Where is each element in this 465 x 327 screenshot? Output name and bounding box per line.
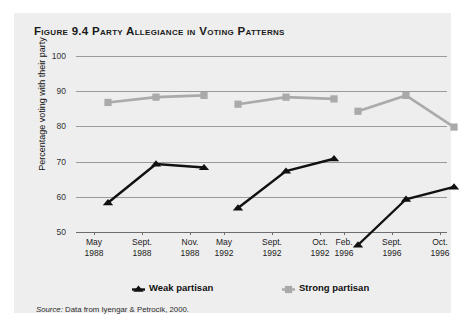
source-note: Source: Data from Iyengar & Petrocik, 20…	[36, 305, 189, 314]
x-axis-label: May1988	[85, 237, 104, 258]
x-tick-2	[190, 232, 191, 235]
x-axis-label: Oct.1992	[311, 237, 330, 258]
x-label-month: Oct.	[312, 237, 328, 247]
x-label-year: 1996	[382, 248, 402, 259]
x-tick-5	[320, 232, 321, 235]
x-axis-label: Feb.1996	[335, 237, 354, 258]
x-axis-label: Sept.1992	[262, 237, 282, 258]
chart-legend: Weak partisanStrong partisan	[132, 282, 402, 298]
x-label-month: Nov.	[182, 237, 199, 247]
page-title: Figure 9.4 Party Allegiance in Voting Pa…	[34, 25, 285, 37]
x-axis-label: Sept.1996	[382, 237, 402, 258]
x-label-month: May	[216, 237, 232, 247]
figure-title-text: Party Allegiance in Voting Patterns	[92, 25, 285, 37]
x-label-month: Feb.	[335, 237, 352, 247]
gridline-80	[76, 126, 447, 127]
figure-panel: Figure 9.4 Party Allegiance in Voting Pa…	[14, 13, 451, 313]
x-label-year: 1988	[85, 248, 104, 259]
x-tick-6	[344, 232, 345, 235]
x-tick-0	[94, 232, 95, 235]
gridline-60	[76, 197, 447, 198]
plot-area	[76, 56, 447, 232]
x-label-month: May	[86, 237, 102, 247]
source-label: Source:	[36, 305, 63, 314]
legend-square	[285, 286, 292, 293]
square-marker-icon	[282, 285, 295, 294]
x-axis-label: May1992	[215, 237, 234, 258]
legend-item-weak-partisan[interactable]: Weak partisan	[132, 282, 213, 293]
x-tick-7	[392, 232, 393, 235]
legend-item-strong-partisan[interactable]: Strong partisan	[282, 282, 369, 293]
y-tick-label-70: 70	[57, 157, 66, 167]
y-axis-title: Percentage voting with their party	[37, 14, 47, 194]
y-tick-label-80: 80	[57, 121, 66, 131]
y-tick-label-100: 100	[52, 51, 66, 61]
x-label-year: 1992	[215, 248, 234, 259]
x-axis-label: Oct.1996	[431, 237, 450, 258]
legend-label: Strong partisan	[299, 282, 369, 293]
x-tick-3	[224, 232, 225, 235]
x-label-month: Sept.	[132, 237, 152, 247]
x-tick-1	[142, 232, 143, 235]
gridline-90	[76, 91, 447, 92]
triangle-marker-icon	[132, 285, 145, 294]
x-label-year: 1992	[262, 248, 282, 259]
x-axis-label: Sept.1988	[132, 237, 152, 258]
y-tick-label-90: 90	[57, 86, 66, 96]
x-label-year: 1988	[132, 248, 152, 259]
x-tick-4	[272, 232, 273, 235]
data-point-strong-partisan-8	[450, 123, 457, 130]
x-axis-label: Nov.1988	[181, 237, 200, 258]
legend-label: Weak partisan	[149, 282, 213, 293]
gridline-100	[76, 56, 447, 57]
x-label-year: 1996	[431, 248, 450, 259]
x-label-year: 1992	[311, 248, 330, 259]
source-text: Data from Iyengar & Petrocik, 2000.	[63, 305, 189, 314]
x-label-year: 1988	[181, 248, 200, 259]
data-point-weak-partisan-8	[449, 183, 459, 189]
x-tick-8	[440, 232, 441, 235]
x-label-month: Sept.	[262, 237, 282, 247]
x-label-month: Sept.	[382, 237, 402, 247]
y-tick-label-50: 50	[57, 227, 66, 237]
data-point-weak-partisan-6	[353, 241, 363, 247]
y-tick-label-60: 60	[57, 192, 66, 202]
gridline-70	[76, 162, 447, 163]
x-label-month: Oct.	[432, 237, 448, 247]
x-label-year: 1996	[335, 248, 354, 259]
